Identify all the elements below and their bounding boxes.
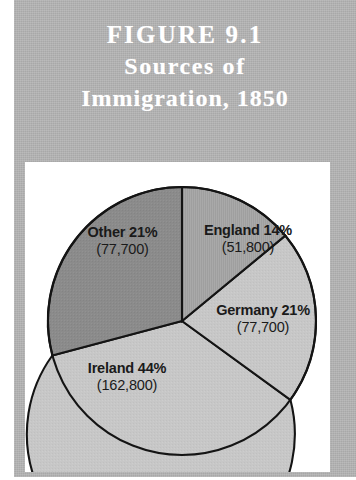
pie-chart — [25, 162, 330, 472]
figure-title-line-1: FIGURE 9.1 — [14, 18, 356, 51]
figure-title-line-2: Sources of — [14, 51, 356, 83]
chart-frame: England 14% (51,800) Germany 21% (77,700… — [25, 162, 330, 472]
figure-title: FIGURE 9.1 Sources of Immigration, 1850 — [14, 18, 356, 115]
figure-container: FIGURE 9.1 Sources of Immigration, 1850 — [0, 0, 356, 480]
figure-title-line-3: Immigration, 1850 — [14, 83, 356, 115]
